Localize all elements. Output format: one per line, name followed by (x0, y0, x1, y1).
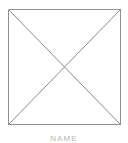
square-diagonals-figure (0, 0, 128, 143)
figure-container: NAME (0, 0, 128, 143)
